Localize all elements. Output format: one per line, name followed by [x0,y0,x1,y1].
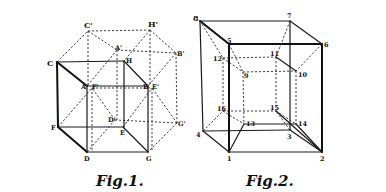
label-c-prime: C' [84,20,93,30]
figure-1-projection: C' H' A' B' C H A F' B E' D' G' F E D G … [47,19,186,190]
label-e: E [120,129,125,137]
label-h: H [126,57,132,65]
figure-1-caption: Fig.1. [95,172,144,190]
label-a-prime: A' [114,44,122,52]
label-6: 6 [324,41,329,49]
label-4: 4 [196,131,201,139]
label-e-prime: E' [152,83,159,91]
label-d-prime: D' [108,116,116,124]
label-g: G [146,155,152,163]
label-b-prime: B' [177,50,184,58]
label-h-prime: H' [148,19,158,29]
label-12: 12 [213,55,222,63]
label-10: 10 [298,71,308,79]
label-g-prime: G' [178,120,186,128]
label-b: B [143,83,149,91]
label-16: 16 [217,105,227,113]
label-5: 5 [227,37,232,45]
label-8: 8 [193,13,199,23]
label-7: 7 [287,12,292,20]
label-14: 14 [298,120,308,128]
label-f: F [51,124,56,132]
label-15: 15 [270,104,280,112]
hypercube-diagram: C' H' A' B' C H A F' B E' D' G' F E D G … [0,0,386,192]
label-11: 11 [270,50,279,58]
label-2: 2 [320,155,325,163]
label-c: C [47,58,53,68]
label-13: 13 [246,120,256,128]
label-a: A [80,83,87,91]
label-f-prime: F' [92,83,99,91]
label-1: 1 [227,155,232,163]
label-d: D [84,155,90,163]
figure-2-caption: Fig.2. [245,172,294,190]
label-9: 9 [244,72,249,80]
figure-2-projection: 8 7 5 6 12 11 9 10 16 15 13 14 4 3 1 2 F… [193,12,329,190]
label-3: 3 [287,133,292,141]
